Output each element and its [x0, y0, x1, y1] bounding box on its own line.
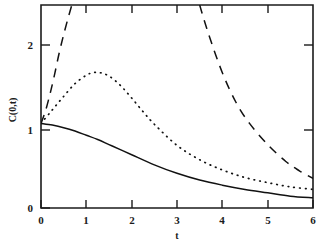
y-axis-ticks [41, 45, 50, 208]
x-tick-label-3: 3 [174, 214, 180, 226]
x-axis-title: t [175, 230, 179, 241]
y-tick-label-2: 2 [28, 39, 34, 51]
x-axis-ticks-top [86, 5, 268, 13]
plot-frame [41, 5, 313, 208]
x-tick-label-6: 6 [310, 214, 316, 226]
curve-dashed-right-branch [200, 5, 313, 178]
curve-dotted [41, 72, 313, 189]
x-tick-label-0: 0 [38, 214, 44, 226]
y-tick-label-1: 1 [28, 124, 34, 136]
curve-solid [41, 123, 313, 197]
x-tick-label-4: 4 [219, 214, 225, 226]
y-tick-label-0: 0 [28, 202, 34, 214]
x-axis-ticks [41, 200, 313, 208]
plot-svg: 0 1 2 0 1 2 3 4 5 6 C(0,t) t [0, 0, 328, 242]
x-tick-label-1: 1 [83, 214, 89, 226]
x-tick-label-5: 5 [265, 214, 271, 226]
y-axis-title: C(0,t) [7, 98, 19, 123]
y-axis-ticks-right [304, 45, 313, 130]
figure-canvas: 0 1 2 0 1 2 3 4 5 6 C(0,t) t [0, 0, 328, 242]
data-curves [41, 5, 313, 198]
x-tick-label-2: 2 [129, 214, 135, 226]
